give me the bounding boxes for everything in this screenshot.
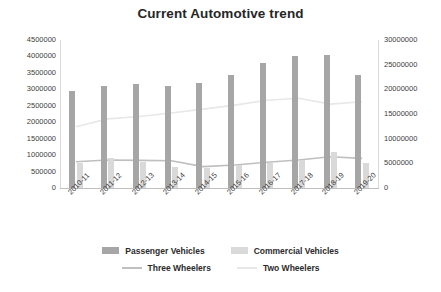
legend-swatch-icon <box>102 247 119 254</box>
bar-passenger-vehicles <box>133 84 139 188</box>
bar-passenger-vehicles <box>292 56 298 188</box>
category-axis-labels: 2010-112011-122012-132013-142014-152015-… <box>60 190 378 238</box>
left-tick-label: 1000000 <box>27 151 56 159</box>
left-tick-label: 4500000 <box>27 36 56 44</box>
right-tick-label: 20000000 <box>384 85 417 93</box>
bar-passenger-vehicles <box>324 55 330 188</box>
legend-item[interactable]: Commercial Vehicles <box>231 246 339 256</box>
bar-passenger-vehicles <box>228 75 234 188</box>
legend-item[interactable]: Two Wheelers <box>237 263 320 273</box>
legend-swatch-icon <box>231 247 248 254</box>
bar-passenger-vehicles <box>260 63 266 188</box>
left-tick-label: 2500000 <box>27 102 56 110</box>
legend-item[interactable]: Passenger Vehicles <box>102 246 204 256</box>
legend-line-icon <box>237 267 257 269</box>
right-axis-line <box>378 40 379 189</box>
left-tick-label: 3000000 <box>27 85 56 93</box>
left-tick-label: 0 <box>52 184 56 192</box>
left-tick-label: 1500000 <box>27 135 56 143</box>
left-tick-label: 500000 <box>31 168 56 176</box>
plot-area <box>60 40 378 188</box>
line-two-wheelers <box>76 98 362 127</box>
legend-row-primary: Passenger VehiclesCommercial Vehicles <box>0 242 441 259</box>
bar-passenger-vehicles <box>165 86 171 188</box>
legend-item[interactable]: Three Wheelers <box>122 263 211 273</box>
right-tick-label: 25000000 <box>384 61 417 69</box>
legend-label: Commercial Vehicles <box>254 246 339 256</box>
right-tick-label: 5000000 <box>384 159 413 167</box>
bar-passenger-vehicles <box>355 75 361 188</box>
bar-passenger-vehicles <box>101 86 107 188</box>
left-tick-label: 3500000 <box>27 69 56 77</box>
right-tick-label: 0 <box>384 184 388 192</box>
legend-label: Three Wheelers <box>148 263 211 273</box>
line-three-wheelers <box>76 157 362 167</box>
chart-legend: Passenger VehiclesCommercial Vehicles Th… <box>0 242 441 276</box>
right-tick-label: 30000000 <box>384 36 417 44</box>
legend-line-icon <box>122 267 142 269</box>
right-tick-label: 10000000 <box>384 135 417 143</box>
left-tick-label: 2000000 <box>27 118 56 126</box>
bar-passenger-vehicles <box>196 83 202 188</box>
left-tick-label: 4000000 <box>27 52 56 60</box>
right-tick-label: 15000000 <box>384 110 417 118</box>
legend-row-secondary: Three WheelersTwo Wheelers <box>0 259 441 276</box>
bar-passenger-vehicles <box>69 91 75 188</box>
legend-label: Two Wheelers <box>263 263 320 273</box>
chart-container: Current Automotive trend 450000040000003… <box>0 0 441 292</box>
chart-title: Current Automotive trend <box>0 6 441 21</box>
legend-label: Passenger Vehicles <box>125 246 204 256</box>
